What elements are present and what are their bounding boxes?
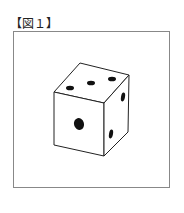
dice-icon xyxy=(0,0,184,213)
